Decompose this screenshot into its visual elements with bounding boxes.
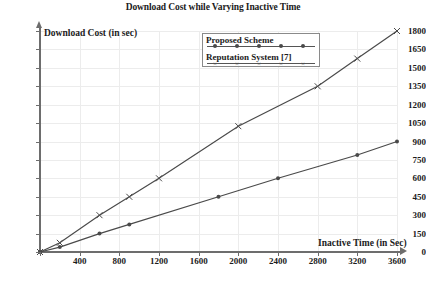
- y-tick-mark: [36, 142, 40, 143]
- x-tick-mark: [397, 252, 398, 256]
- y-tick-mark: [36, 215, 40, 216]
- x-tick-label: 3600: [388, 256, 406, 266]
- y-tick-mark: [36, 178, 40, 179]
- x-tick-mark: [199, 252, 200, 256]
- x-tick-label: 1600: [190, 256, 208, 266]
- x-tick-mark: [119, 252, 120, 256]
- chart-legend: Proposed Scheme Reputation System [7] ××…: [202, 33, 320, 67]
- legend-label: Proposed Scheme: [206, 35, 274, 45]
- x-tick-label: 1200: [150, 256, 168, 266]
- data-point-marker-x: [354, 56, 360, 62]
- data-point-marker-dot: [276, 176, 280, 180]
- x-tick-mark: [40, 252, 41, 256]
- y-tick-mark: [36, 197, 40, 198]
- data-point-marker-dot: [98, 232, 102, 236]
- data-point-marker-x: [57, 240, 63, 246]
- legend-entry-reputation-system: Reputation System [7] ×××××: [203, 51, 319, 68]
- y-tick-mark: [36, 160, 40, 161]
- x-tick-label: 3200: [348, 256, 366, 266]
- y-tick-label: 1800: [392, 26, 426, 36]
- legend-marker-x: ×: [300, 61, 306, 67]
- chart-container: Download Cost while Varying Inactive Tim…: [0, 0, 426, 281]
- y-tick-label: 750: [392, 155, 426, 165]
- data-point-marker-x: [156, 175, 162, 181]
- y-tick-label: 1350: [392, 81, 426, 91]
- y-tick-label: 1200: [392, 100, 426, 110]
- y-tick-label: 900: [392, 137, 426, 147]
- y-tick-mark: [36, 68, 40, 69]
- x-tick-mark: [318, 252, 319, 256]
- data-point-marker-dot: [217, 195, 221, 199]
- y-tick-label: 300: [392, 210, 426, 220]
- data-point-marker-x: [126, 194, 132, 200]
- data-point-marker-x: [315, 83, 321, 89]
- y-tick-label: 1650: [392, 44, 426, 54]
- data-point-marker-dot: [127, 222, 131, 226]
- data-point-marker-x: [235, 123, 241, 129]
- y-tick-mark: [36, 123, 40, 124]
- x-tick-mark: [238, 252, 239, 256]
- legend-line-proposed-scheme: [207, 46, 315, 47]
- x-tick-label: 2800: [309, 256, 327, 266]
- y-tick-mark: [36, 86, 40, 87]
- x-tick-label: 2000: [229, 256, 247, 266]
- x-tick-label: 800: [113, 256, 127, 266]
- x-tick-mark: [80, 252, 81, 256]
- y-tick-label: 150: [392, 229, 426, 239]
- y-tick-label: 450: [392, 192, 426, 202]
- data-point-marker-dot: [355, 153, 359, 157]
- data-point-marker-x: [97, 212, 103, 218]
- x-tick-label: 2400: [269, 256, 287, 266]
- x-tick-label: 400: [73, 256, 87, 266]
- x-tick-mark: [159, 252, 160, 256]
- legend-entry-proposed-scheme: Proposed Scheme: [203, 34, 319, 51]
- data-point-marker-dot: [58, 245, 62, 249]
- y-tick-mark: [36, 49, 40, 50]
- x-tick-mark: [357, 252, 358, 256]
- legend-marker-dot: [279, 44, 283, 48]
- y-tick-label: 1050: [392, 118, 426, 128]
- y-tick-mark: [36, 234, 40, 235]
- legend-label: Reputation System [7]: [206, 52, 292, 62]
- y-tick-label: 1500: [392, 63, 426, 73]
- y-tick-label: 600: [392, 173, 426, 183]
- y-tick-mark: [36, 31, 40, 32]
- legend-marker-dot: [301, 44, 305, 48]
- y-tick-mark: [36, 105, 40, 106]
- x-tick-mark: [278, 252, 279, 256]
